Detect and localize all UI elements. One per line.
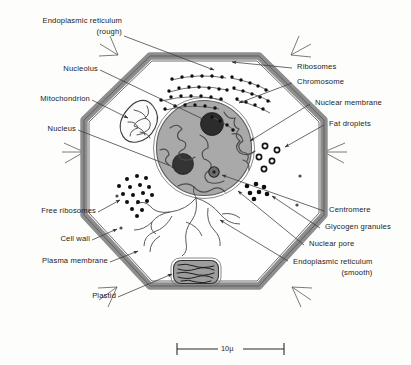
label-mitochondrion-text: Mitochondrion xyxy=(40,94,90,103)
label-rough-er-line2: (rough) xyxy=(42,27,122,38)
label-fat-droplets-text: Fat droplets xyxy=(329,119,371,128)
label-nucleus-text: Nucleus xyxy=(48,124,77,133)
label-ribosomes-text: Ribosomes xyxy=(297,62,336,71)
scale-bar-text: 10µ xyxy=(221,344,233,353)
label-plastid-text: Plastid xyxy=(92,291,116,300)
label-mitochondrion: Mitochondrion xyxy=(40,94,90,104)
cell-diagram-canvas xyxy=(0,0,411,365)
cell-diagram-figure: Endoplasmic reticulum (rough) Nucleolus … xyxy=(0,0,411,365)
label-nucleus: Nucleus xyxy=(48,124,77,134)
label-centromere: Centromere xyxy=(329,205,371,215)
label-free-ribosomes: Free ribosomes xyxy=(41,206,96,216)
label-fat-droplets: Fat droplets xyxy=(329,119,371,129)
label-plastid: Plastid xyxy=(92,291,116,301)
label-plasma-membrane-text: Plasma membrane xyxy=(42,256,108,265)
label-plasma-membrane: Plasma membrane xyxy=(42,256,108,266)
label-smooth-er-line2: (smooth) xyxy=(293,268,373,279)
label-cell-wall: Cell wall xyxy=(60,234,90,244)
label-centromere-text: Centromere xyxy=(329,205,371,214)
label-smooth-er-line1: Endoplasmic reticulum xyxy=(293,257,373,268)
label-nucleolus: Nucleolus xyxy=(63,64,98,74)
label-nuclear-pore-text: Nuclear pore xyxy=(309,239,354,248)
plastid xyxy=(171,258,221,286)
centromere xyxy=(209,167,219,177)
label-glycogen-granules-text: Glycogen granules xyxy=(325,222,391,231)
label-ribosomes: Ribosomes xyxy=(297,62,336,72)
label-cell-wall-text: Cell wall xyxy=(60,234,90,243)
label-glycogen-granules: Glycogen granules xyxy=(325,222,391,232)
label-rough-er: Endoplasmic reticulum (rough) xyxy=(42,16,122,37)
label-chromosome-text: Chromosome xyxy=(297,77,344,86)
label-nuclear-membrane: Nuclear membrane xyxy=(315,98,382,108)
label-nucleolus-text: Nucleolus xyxy=(63,64,98,73)
label-chromosome: Chromosome xyxy=(297,77,344,87)
label-nuclear-membrane-text: Nuclear membrane xyxy=(315,98,382,107)
label-free-ribosomes-text: Free ribosomes xyxy=(41,206,96,215)
scale-bar-label: 10µ xyxy=(221,344,233,353)
label-rough-er-line1: Endoplasmic reticulum xyxy=(42,16,122,27)
label-nuclear-pore: Nuclear pore xyxy=(309,239,354,249)
label-smooth-er: Endoplasmic reticulum (smooth) xyxy=(293,257,373,278)
